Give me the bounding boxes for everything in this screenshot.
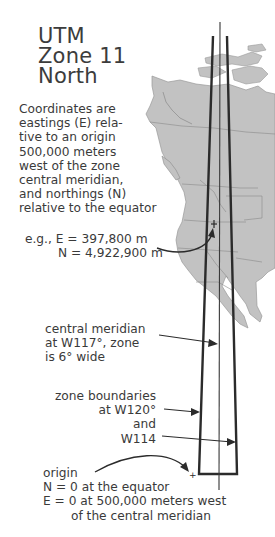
- title-line-2: Zone 11: [38, 46, 126, 66]
- origin-line-1: origin: [43, 466, 226, 480]
- central-meridian-arrow: [159, 335, 215, 343]
- desc-line: 500,000 meters: [19, 145, 157, 159]
- central-meridian-label: central meridian at W117°, zone is 6° wi…: [45, 322, 146, 365]
- title-line-3: North: [38, 66, 126, 86]
- desc-line: relative to the equator: [19, 201, 157, 215]
- origin-line-3: E = 0 at 500,000 meters west: [43, 494, 226, 508]
- zb-line-3: and: [50, 417, 156, 431]
- example-coordinates: e.g., E = 397,800 m N = 4,922,900 m: [25, 232, 163, 260]
- origin-line-4: of the central meridian: [43, 509, 226, 523]
- desc-line: eastings (E) rela-: [19, 116, 157, 130]
- example-northing: N = 4,922,900 m: [25, 246, 163, 260]
- zb-line-4: W114: [50, 432, 156, 446]
- zb-line-1: zone boundaries: [50, 389, 156, 403]
- desc-line: central meridian,: [19, 173, 157, 187]
- origin-label: origin N = 0 at the equator E = 0 at 500…: [43, 466, 226, 523]
- coordinates-description: Coordinates are eastings (E) rela- tive …: [19, 102, 157, 216]
- desc-line: west of the zone: [19, 159, 157, 173]
- cm-line-1: central meridian: [45, 322, 146, 336]
- desc-line: tive to an origin: [19, 130, 157, 144]
- desc-line: and northings (N): [19, 187, 157, 201]
- zb-line-2: at W120°: [50, 403, 156, 417]
- title-line-1: UTM: [38, 26, 126, 46]
- desc-line: Coordinates are: [19, 102, 157, 116]
- zone-boundaries-label: zone boundaries at W120° and W114: [50, 389, 156, 446]
- cm-line-2: at W117°, zone: [45, 336, 146, 350]
- utm-zone-diagram: + UTM Zone 11 North Coordinates are east…: [0, 0, 275, 537]
- cm-line-3: is 6° wide: [45, 350, 146, 364]
- w114-arrow: [162, 436, 232, 442]
- example-easting: e.g., E = 397,800 m: [25, 232, 163, 246]
- origin-line-2: N = 0 at the equator: [43, 480, 226, 494]
- diagram-title: UTM Zone 11 North: [38, 26, 126, 86]
